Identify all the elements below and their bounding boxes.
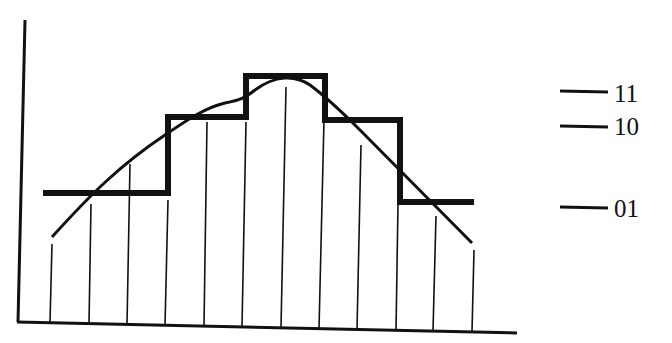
x-axis [17, 322, 517, 333]
quantization-diagram [0, 0, 672, 343]
y-axis [18, 20, 25, 322]
level-tick-01 [560, 207, 608, 208]
level-label-01: 01 [614, 196, 639, 221]
level-label-11: 11 [614, 81, 638, 106]
level-tick-10 [560, 126, 608, 127]
level-label-10: 10 [614, 114, 639, 139]
level-tick-11 [560, 91, 608, 92]
sample-lines [50, 87, 474, 332]
quantized-step-signal [43, 76, 474, 202]
analog-signal-curve [52, 78, 472, 243]
